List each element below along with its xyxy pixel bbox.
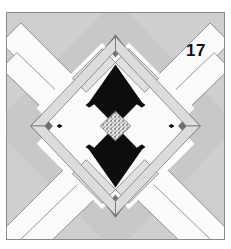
block-number-label: 17 — [186, 41, 206, 61]
quilt-block: 17 — [6, 12, 225, 240]
figure-canvas: 17 — [0, 0, 231, 249]
